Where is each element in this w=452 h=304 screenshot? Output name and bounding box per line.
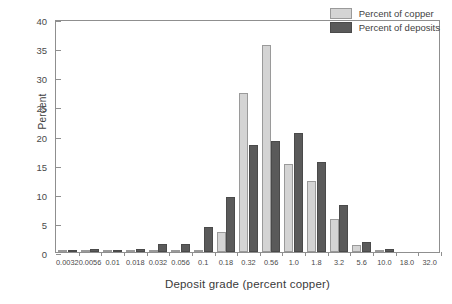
bar-deposits [271,141,280,252]
bar-deposits [68,250,77,252]
y-tick-mark [56,79,61,80]
bar-deposits [181,244,190,252]
bar-deposits [339,205,348,252]
x-tick-label: 32.0 [422,258,436,267]
y-tick-mark [56,196,61,197]
y-tick-label: 15 [36,161,47,172]
x-tick-label: 0.0032 [56,258,79,267]
bar-copper [330,219,339,252]
legend-label: Percent of deposits [359,22,440,33]
y-tick-mark [56,21,61,22]
x-tick-label: 0.1 [198,258,208,267]
x-tick-mark [169,252,170,256]
bar-copper [307,181,316,252]
x-tick-label: 0.018 [126,258,145,267]
x-tick-label: 1.0 [289,258,299,267]
x-tick-label: 0.56 [264,258,278,267]
x-tick-mark [282,252,283,256]
y-tick-label: 20 [36,132,47,143]
bar-copper [171,250,180,252]
x-tick-label: 0.056 [171,258,190,267]
legend-swatch-icon [330,8,352,19]
x-tick-label: 18.0 [400,258,414,267]
x-tick-label: 5.6 [357,258,367,267]
y-tick-label: 30 [36,74,47,85]
chart-figure: Percent 0510152025303540 0.00320.00560.0… [0,0,452,304]
bar-deposits [294,133,303,252]
chart-legend: Percent of copperPercent of deposits [330,8,440,33]
bar-copper [194,250,203,252]
bar-copper [126,250,135,252]
x-tick-label: 1.8 [311,258,321,267]
x-tick-mark [260,252,261,256]
x-tick-mark [441,252,442,256]
x-tick-mark [147,252,148,256]
bar-copper [217,232,226,252]
y-tick-label: 35 [36,45,47,56]
y-tick-mark [56,138,61,139]
y-tick-label: 10 [36,190,47,201]
y-tick-label: 0 [42,249,47,260]
legend-item[interactable]: Percent of deposits [330,22,440,33]
x-tick-mark [305,252,306,256]
y-tick-mark [56,167,61,168]
bar-deposits [113,250,122,252]
bar-deposits [317,162,326,252]
legend-item[interactable]: Percent of copper [330,8,440,19]
x-tick-mark [79,252,80,256]
y-tick-mark [56,108,61,109]
bar-deposits [226,197,235,252]
bar-deposits [362,242,371,252]
y-tick-label: 40 [36,16,47,27]
y-tick-mark [56,254,61,255]
x-tick-label: 0.032 [149,258,168,267]
x-tick-label: 0.32 [241,258,255,267]
bar-copper [239,93,248,252]
bar-deposits [385,249,394,252]
bar-deposits [136,249,145,252]
bar-deposits [249,145,258,252]
plot-area: 0510152025303540 0.00320.00560.010.0180.… [55,20,440,253]
x-tick-mark [124,252,125,256]
y-tick-label: 25 [36,103,47,114]
x-tick-mark [237,252,238,256]
bar-deposits [204,227,213,252]
x-tick-mark [373,252,374,256]
x-tick-mark [215,252,216,256]
x-tick-label: 3.2 [334,258,344,267]
x-tick-label: 0.0056 [79,258,102,267]
x-tick-label: 0.18 [219,258,233,267]
x-axis-title: Deposit grade (percent copper) [55,278,440,290]
y-tick-label: 5 [42,219,47,230]
y-tick-mark [56,50,61,51]
x-tick-mark [101,252,102,256]
x-tick-mark [350,252,351,256]
x-tick-mark [396,252,397,256]
legend-label: Percent of copper [359,8,434,19]
x-tick-label: 10.0 [377,258,391,267]
y-tick-mark [56,225,61,226]
bar-copper [103,250,112,252]
x-tick-mark [418,252,419,256]
bar-deposits [158,244,167,252]
bar-copper [149,250,158,252]
bar-copper [81,250,90,252]
bar-copper [352,245,361,252]
bar-copper [58,250,67,252]
legend-swatch-icon [330,22,352,33]
bar-deposits [90,249,99,252]
bar-copper [375,250,384,252]
x-tick-mark [328,252,329,256]
bar-copper [284,164,293,252]
bar-copper [262,45,271,252]
x-tick-mark [192,252,193,256]
x-tick-label: 0.01 [105,258,119,267]
